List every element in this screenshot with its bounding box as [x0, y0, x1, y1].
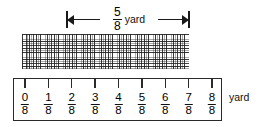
tick-fraction-denominator: 8	[68, 105, 76, 117]
dimension-fraction-numerator: 5	[113, 6, 122, 20]
ruler-tick-label: 28	[68, 90, 76, 118]
tick-fraction-numerator: 6	[161, 92, 169, 105]
ruler-tick-label: 38	[91, 90, 99, 118]
dimension-label: 5 8 yard	[100, 4, 158, 34]
tick-fraction: 28	[68, 92, 76, 117]
ruler-tick	[118, 79, 119, 88]
tick-fraction: 38	[91, 92, 99, 117]
tick-fraction-denominator: 8	[44, 105, 52, 117]
tick-fraction-numerator: 7	[184, 92, 192, 105]
ruler-tick	[24, 79, 25, 88]
ruler-tick	[188, 79, 189, 88]
dimension-fraction: 5 8	[113, 6, 122, 32]
ruler-tick-label: 48	[114, 90, 122, 118]
tick-fraction: 08	[21, 92, 29, 117]
dimension-fraction-denominator: 8	[113, 20, 122, 33]
fraction-length-figure: 5 8 yard 081828384858687888 yard	[0, 0, 263, 127]
tick-fraction-numerator: 3	[91, 92, 99, 105]
tick-fraction: 48	[114, 92, 122, 117]
ruler-tick	[48, 79, 49, 88]
hatched-length-bar	[22, 34, 189, 69]
length-dimension-arrow: 5 8 yard	[66, 4, 190, 36]
ruler-tick	[94, 79, 95, 88]
tick-fraction-denominator: 8	[161, 105, 169, 117]
dimension-unit-label: yard	[125, 14, 145, 25]
arrow-right-icon	[182, 15, 189, 25]
tick-fraction-numerator: 0	[21, 92, 29, 105]
arrow-left-icon	[67, 15, 74, 25]
ruler-tick	[165, 79, 166, 88]
ruler-tick-label: 68	[161, 90, 169, 118]
ruler-tick-label: 88	[208, 90, 216, 118]
ruler-tick-label: 78	[184, 90, 192, 118]
tick-fraction-denominator: 8	[184, 105, 192, 117]
ruler-tick	[71, 79, 72, 88]
eighths-number-line: 081828384858687888	[13, 78, 222, 121]
tick-fraction-denominator: 8	[91, 105, 99, 117]
tick-fraction-numerator: 2	[68, 92, 76, 105]
ruler-tick-label: 18	[44, 90, 52, 118]
tick-fraction: 58	[138, 92, 146, 117]
ruler-label-group: 081828384858687888	[14, 90, 221, 120]
tick-fraction-denominator: 8	[114, 105, 122, 117]
tick-fraction-numerator: 1	[44, 92, 52, 105]
tick-fraction-denominator: 8	[21, 105, 29, 117]
tick-fraction-numerator: 4	[114, 92, 122, 105]
ruler-tick-label: 58	[138, 90, 146, 118]
tick-fraction: 88	[208, 92, 216, 117]
tick-fraction: 78	[184, 92, 192, 117]
tick-fraction-denominator: 8	[208, 105, 216, 117]
tick-fraction-denominator: 8	[138, 105, 146, 117]
ruler-tick	[141, 79, 142, 88]
tick-fraction-numerator: 8	[208, 92, 216, 105]
tick-fraction-numerator: 5	[138, 92, 146, 105]
tick-fraction: 68	[161, 92, 169, 117]
ruler-tick	[211, 79, 212, 88]
ruler-tick-label: 08	[21, 90, 29, 118]
ruler-unit-label: yard	[229, 92, 249, 103]
tick-fraction: 18	[44, 92, 52, 117]
